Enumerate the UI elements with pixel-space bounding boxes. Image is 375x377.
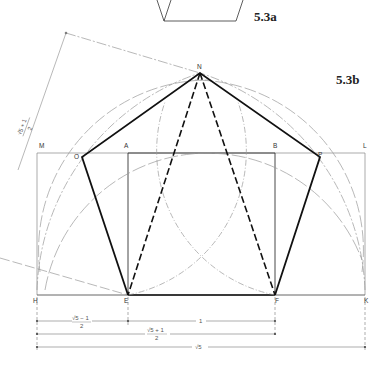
point-labels: N M L O P A B H E F K: [33, 63, 369, 304]
point-f: F: [275, 297, 279, 304]
point-b: B: [273, 142, 277, 149]
unit-square: [128, 153, 275, 295]
point-a: A: [124, 142, 129, 149]
point-n: N: [197, 63, 202, 70]
dim-he-denominator: 2: [80, 323, 84, 329]
dim-ef: 1: [199, 318, 203, 324]
point-l: L: [363, 142, 367, 149]
figure-5-3a-shape: [157, 0, 243, 21]
rotated-golden-rectangle: [18, 32, 200, 170]
dimension-labels: √5 − 1 2 1 √5 + 1 2 √5: [72, 315, 203, 350]
rotated-dim-denominator: 2: [27, 125, 34, 131]
pentagon-outline: [82, 73, 320, 295]
dim-hf-denominator: 2: [155, 335, 159, 341]
point-p: P: [318, 151, 322, 158]
dim-he-numerator: √5 − 1: [72, 315, 89, 321]
point-m: M: [39, 142, 44, 149]
dim-hf-numerator: √5 + 1: [147, 327, 164, 333]
point-o: O: [74, 153, 79, 160]
pentagon-construction-diagram: N M L O P A B H E F K √5 + 1 2 √: [0, 0, 375, 377]
outer-rectangle: [37, 153, 365, 295]
pentagon-diagonals: [128, 73, 275, 295]
dim-hk: √5: [195, 344, 202, 350]
